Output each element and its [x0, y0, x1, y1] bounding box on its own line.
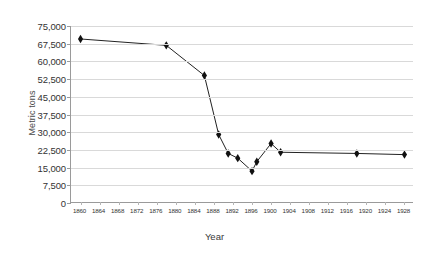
- x-axis-tick-label: 1892: [225, 207, 238, 214]
- gridline: [71, 132, 413, 133]
- x-axis-tick-mark: [271, 202, 272, 205]
- x-axis-tick-mark: [328, 202, 329, 205]
- y-axis-tick-label: 22,500: [38, 144, 66, 155]
- y-axis-tick-mark: [67, 132, 71, 133]
- gridline: [71, 97, 413, 98]
- x-axis-tick-mark: [119, 202, 120, 205]
- y-axis-tick-mark: [67, 115, 71, 116]
- x-axis-tick-label: 1880: [168, 207, 181, 214]
- x-axis-title: Year: [0, 231, 429, 242]
- x-axis-tick-mark: [214, 202, 215, 205]
- x-axis-tick-label: 1888: [206, 207, 219, 214]
- y-axis-tick-mark: [67, 185, 71, 186]
- x-axis-tick-mark: [233, 202, 234, 205]
- y-axis-tick-mark: [67, 79, 71, 80]
- y-axis-tick-label: 60,000: [38, 56, 66, 67]
- x-axis-tick-label: 1924: [378, 207, 391, 214]
- y-axis-tick-label: 30,000: [38, 127, 66, 138]
- x-axis-tick-label: 1876: [149, 207, 162, 214]
- x-axis-tick-label: 1864: [92, 207, 105, 214]
- y-axis-tick-label: 75,000: [38, 21, 66, 32]
- x-axis-tick-label: 1912: [321, 207, 334, 214]
- data-point-marker: [402, 150, 407, 158]
- x-axis-tick-mark: [385, 202, 386, 205]
- gridline: [71, 168, 413, 169]
- y-axis-tick-mark: [67, 61, 71, 62]
- x-axis-tick-label: 1884: [187, 207, 200, 214]
- x-axis-tick-label: 1928: [397, 207, 410, 214]
- x-axis-tick-label: 1908: [302, 207, 315, 214]
- plot-area: [70, 26, 413, 203]
- x-axis-tick-label: 1904: [283, 207, 296, 214]
- gridline: [71, 115, 413, 116]
- x-axis-tick-mark: [157, 202, 158, 205]
- data-point-marker: [164, 41, 169, 49]
- x-axis-tick-label: 1860: [73, 207, 86, 214]
- x-axis-tick-label: 1872: [130, 207, 143, 214]
- x-axis-tick-mark: [138, 202, 139, 205]
- gridline: [71, 150, 413, 151]
- data-point-marker: [235, 154, 240, 162]
- gridline: [71, 79, 413, 80]
- y-axis-tick-mark: [67, 168, 71, 169]
- y-axis-tick-mark: [67, 44, 71, 45]
- x-axis-tick-labels: 1860186418681872187618801884188818921896…: [0, 207, 429, 219]
- x-axis-tick-mark: [176, 202, 177, 205]
- x-axis-tick-label: 1896: [244, 207, 257, 214]
- y-axis-tick-label: 37,500: [38, 109, 66, 120]
- y-axis-tick-label: 15,000: [38, 162, 66, 173]
- y-axis-tick-mark: [67, 203, 71, 204]
- y-axis-tick-mark: [67, 150, 71, 151]
- x-axis-tick-label: 1900: [263, 207, 276, 214]
- x-axis-tick-label: 1920: [359, 207, 372, 214]
- y-axis-tick-label: 52,500: [38, 74, 66, 85]
- x-axis-tick-mark: [81, 202, 82, 205]
- y-axis-tick-label: 67,500: [38, 38, 66, 49]
- x-axis-tick-mark: [100, 202, 101, 205]
- x-axis-tick-mark: [195, 202, 196, 205]
- gridline: [71, 44, 413, 45]
- y-axis-tick-mark: [67, 97, 71, 98]
- gridline: [71, 61, 413, 62]
- y-axis-tick-label: 45,000: [38, 91, 66, 102]
- gridline: [71, 26, 413, 27]
- y-axis-tick-label: 7,500: [43, 180, 66, 191]
- x-axis-tick-mark: [252, 202, 253, 205]
- line-chart: Metric tons 07,50015,00022,50030,00037,5…: [0, 0, 429, 254]
- data-point-marker: [78, 35, 83, 43]
- x-axis-tick-mark: [366, 202, 367, 205]
- x-axis-tick-mark: [347, 202, 348, 205]
- x-axis-tick-mark: [404, 202, 405, 205]
- x-axis-tick-mark: [290, 202, 291, 205]
- y-axis-tick-mark: [67, 26, 71, 27]
- gridline: [71, 185, 413, 186]
- x-axis-tick-label: 1916: [340, 207, 353, 214]
- x-axis-tick-mark: [309, 202, 310, 205]
- x-axis-tick-label: 1868: [111, 207, 124, 214]
